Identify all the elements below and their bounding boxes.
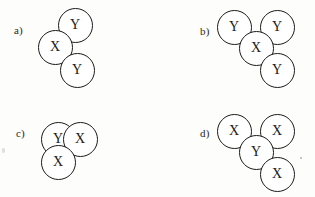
node-label: X: [272, 124, 282, 138]
panel-d: d)XXYX: [0, 0, 315, 197]
node-label: Y: [251, 145, 261, 159]
molecule-arrangement-figure: a)YXYb)YYXYc)YXXd)XXYX: [0, 0, 315, 197]
node-label: X: [229, 124, 239, 138]
scan-artifact-0: [300, 157, 302, 159]
panel-label-d: d): [200, 128, 210, 139]
node-label: X: [272, 167, 282, 181]
scan-artifact-1: [2, 148, 5, 153]
node-d-x-bottomright: X: [260, 157, 295, 192]
